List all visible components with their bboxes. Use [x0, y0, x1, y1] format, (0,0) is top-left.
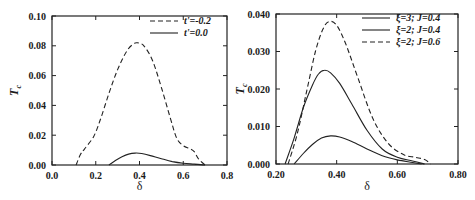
legend-label: ξ=2; J=0.6 — [396, 36, 440, 48]
series-line — [76, 43, 205, 165]
y-tick-label: 0.000 — [248, 159, 271, 170]
y-tick-label: 0.06 — [29, 70, 47, 81]
x-tick-label: 0.80 — [449, 169, 467, 180]
y-tick-label: 0.040 — [248, 9, 271, 20]
x-tick-label: 0.8 — [221, 170, 234, 181]
x-tick-label: 0.60 — [389, 169, 407, 180]
y-tick-label: 0.08 — [29, 40, 47, 51]
y-tick-label: 0.02 — [29, 130, 47, 141]
y-tick-label: 0.00 — [29, 160, 47, 171]
chart-right: 0.200.400.600.800.0000.0100.0200.0300.04… — [233, 9, 467, 194]
y-tick-label: 0.010 — [248, 121, 271, 132]
y-tick-label: 0.030 — [248, 46, 271, 57]
x-tick-label: 0.0 — [46, 170, 59, 181]
x-tick-label: 0.6 — [177, 170, 190, 181]
y-axis-label: Tc — [233, 83, 249, 94]
figure: 0.00.20.40.60.80.000.020.040.060.080.10δ… — [0, 0, 475, 200]
legend-label: t'=-0.2 — [184, 15, 211, 26]
legend-label: t'=0.0 — [184, 27, 208, 38]
x-tick-label: 0.20 — [267, 169, 285, 180]
x-axis-label: δ — [364, 179, 370, 193]
x-tick-label: 0.2 — [90, 170, 103, 181]
x-tick-label: 0.40 — [328, 169, 346, 180]
y-tick-label: 0.020 — [248, 84, 271, 95]
legend-label: ξ=2; J=0.4 — [396, 24, 440, 36]
plot-frame — [52, 16, 227, 165]
y-axis-label: Tc — [7, 85, 23, 96]
x-axis-label: δ — [137, 179, 143, 193]
series-line — [109, 153, 205, 165]
series-line — [294, 136, 421, 164]
chart-left: 0.00.20.40.60.80.000.020.040.060.080.10δ… — [7, 11, 233, 194]
y-tick-label: 0.04 — [29, 100, 47, 111]
legend-label: ξ=3; J=0.4 — [396, 12, 440, 24]
y-tick-label: 0.10 — [29, 11, 47, 22]
